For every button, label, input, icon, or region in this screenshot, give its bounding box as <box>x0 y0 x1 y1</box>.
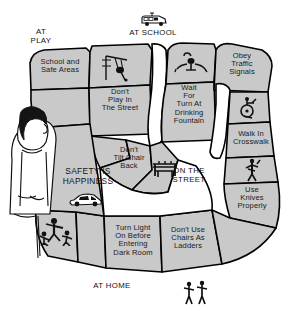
cell-label-wait-for-turn-at-drinking-fountain[interactable]: Wait For Turn At Drinking Fountain <box>163 84 215 125</box>
zone-at-home-label: AT HOME <box>93 281 130 290</box>
zone-at-play-line2: PLAY <box>18 37 64 46</box>
school-bus-icon <box>139 12 169 28</box>
children-playing-icon <box>38 216 74 246</box>
line-2: Safe Areas <box>30 66 90 74</box>
swing-set-icon <box>101 50 135 82</box>
cell-label-dont-play-in-the-street[interactable]: Don't Play In The Street <box>91 88 149 113</box>
wheelchair-icon <box>238 96 260 120</box>
drinking-fountain-icon <box>174 52 208 76</box>
knife-person-icon <box>243 158 261 182</box>
safety-poster: AT PLAY AT SCHOOL ON THE STREET AT HOME … <box>0 0 300 311</box>
line-4: Dark Room <box>104 249 162 257</box>
cell-label-turn-light-on-before-entering-dark-room[interactable]: Turn Light On Before Entering Dark Room <box>104 224 162 257</box>
cell-label-walk-in-crosswalk[interactable]: Walk In Crosswalk <box>226 130 276 146</box>
line-3: The Street <box>91 104 149 112</box>
line-3: Ladders <box>158 242 218 250</box>
line-3: Back <box>103 162 155 170</box>
cell-label-school-and-safe-areas[interactable]: School and Safe Areas <box>30 58 90 74</box>
cell-label-use-knives-properly[interactable]: Use Knives Properly <box>228 186 276 211</box>
line-5: Fountain <box>163 117 215 125</box>
zone-label-at-play: AT PLAY <box>18 28 64 45</box>
cell-label-dont-use-chairs-as-ladders[interactable]: Don't Use Chairs As Ladders <box>158 226 218 251</box>
cell-shape-bottom-blank[interactable] <box>76 212 106 268</box>
zone-label-at-home: AT HOME <box>82 282 142 291</box>
zone-at-school-label: AT SCHOOL <box>129 28 177 37</box>
cell-label-dont-tilt-chair-back[interactable]: Don't Tilt Chair Back <box>103 146 155 171</box>
line-3: Properly <box>228 202 276 210</box>
car-icon <box>68 192 104 208</box>
zone-label-at-school: AT SCHOOL <box>117 29 189 38</box>
cell-label-obey-traffic-signals[interactable]: Obey Traffic Signals <box>216 52 268 77</box>
line-2: Crosswalk <box>226 138 276 146</box>
motto-line-2: HAPPINESS <box>48 177 128 187</box>
two-children-icon <box>182 280 210 306</box>
chair-icon <box>152 158 178 178</box>
line-3: Signals <box>216 68 268 76</box>
